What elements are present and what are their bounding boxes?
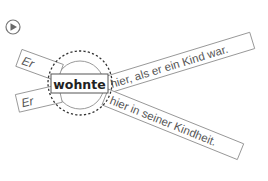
- continuation-text-bottom: hier in seiner Kindheit.: [108, 94, 218, 148]
- continuation-box-bottom: hier in seiner Kindheit.: [102, 89, 244, 159]
- verb-box: wohnte: [51, 74, 108, 93]
- verb-text: wohnte: [53, 77, 105, 92]
- continuation-text-top: hier, als er ein Kind war.: [109, 43, 229, 90]
- sentence-diagram: Er Er hier, als er ein Kind war. hier in…: [0, 0, 268, 181]
- play-button[interactable]: [6, 20, 20, 34]
- continuation-box-top: hier, als er ein Kind war.: [102, 32, 254, 93]
